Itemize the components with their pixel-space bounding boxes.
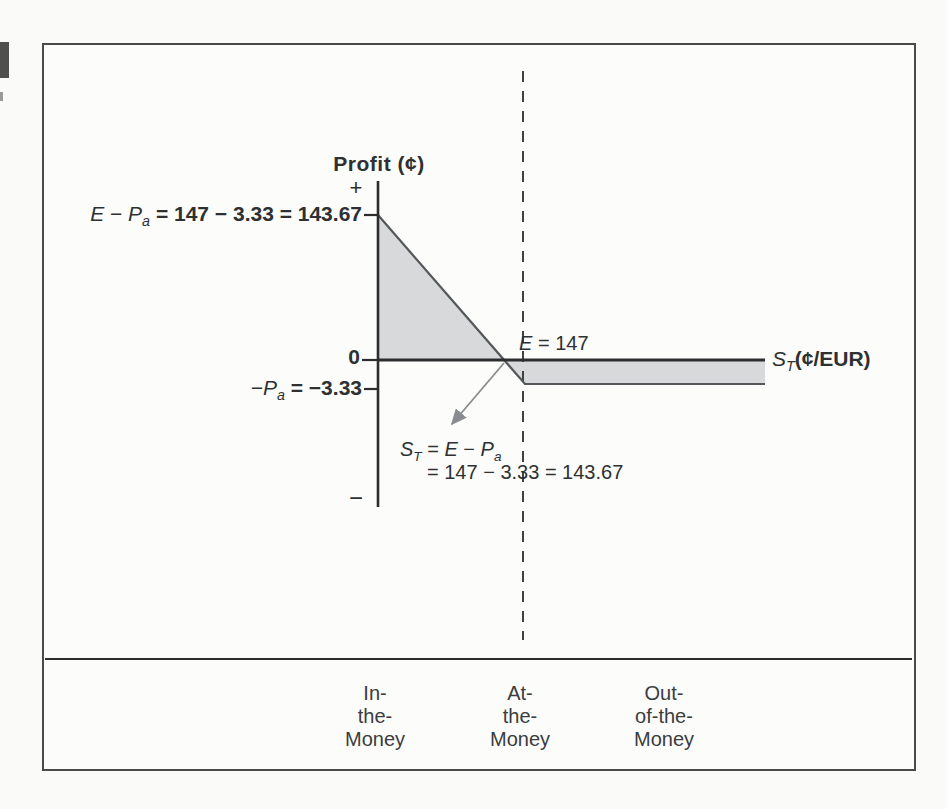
x-axis-title: ST(¢/EUR) <box>772 347 871 375</box>
var-E2: E <box>519 332 532 354</box>
y-axis-plus-mark: + <box>336 175 376 200</box>
origin-zero-label: 0 <box>320 345 360 369</box>
var-negP: −P <box>251 376 277 399</box>
region-label-out-of-the-money: Out- of-the- Money <box>582 682 746 751</box>
breakeven-annotation-line2: = 147 − 3.33 = 143.67 <box>427 461 623 484</box>
breakeven-arrow <box>452 363 504 424</box>
region-label-at-the-money: At- the- Money <box>448 682 592 751</box>
y-axis-title: Profit (¢) <box>298 152 460 176</box>
exercise-price-label: E = 147 <box>519 332 589 355</box>
var-S: S <box>772 347 786 370</box>
var-P: P <box>128 202 142 225</box>
premium-loss-label: −Pa = −3.33 <box>178 376 362 404</box>
region-label-in-the-money: In- the- Money <box>303 682 447 751</box>
max-profit-label: E − Pa = 147 − 3.33 = 143.67 <box>48 202 362 230</box>
var-E: E <box>90 202 104 225</box>
loss-shade-band <box>505 360 765 384</box>
scanned-figure-page: Profit (¢) + − 0 E − Pa = 147 − 3.33 = 1… <box>0 0 947 809</box>
y-axis-minus-mark: − <box>336 484 376 512</box>
